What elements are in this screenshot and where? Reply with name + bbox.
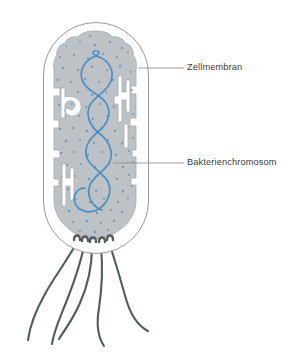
- diagram-canvas: Zellmembran Bakterienchromosom: [0, 0, 299, 353]
- flagellum-5: [110, 245, 148, 331]
- invagination-right-upper-b: [124, 124, 128, 148]
- label-zellmembran: Zellmembran: [187, 62, 242, 72]
- labels-group: Zellmembran Bakterienchromosom: [187, 62, 277, 167]
- bacteria-cell-diagram: Zellmembran Bakterienchromosom: [0, 0, 299, 353]
- flagella-group: [28, 244, 148, 346]
- label-bakterienchromosom: Bakterienchromosom: [187, 157, 277, 167]
- flagellum-3: [59, 247, 92, 339]
- flagellum-2: [52, 246, 84, 344]
- flagellum-4: [98, 247, 104, 346]
